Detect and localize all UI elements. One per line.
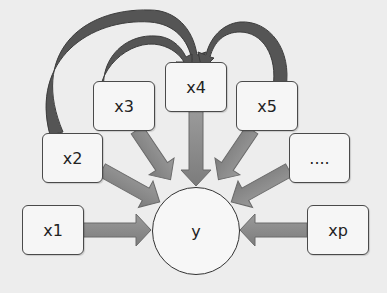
target-label: y: [191, 222, 200, 241]
arrow-x5-to-y: [206, 122, 264, 189]
node-label: x3: [114, 97, 134, 116]
node-x4: x4: [165, 62, 227, 112]
arrow-xp-to-y: [240, 214, 307, 246]
node-label: x1: [43, 221, 63, 240]
arrow-x1-to-y: [83, 214, 151, 246]
node-label: ....: [309, 149, 329, 168]
arrow-x4-to-y: [181, 111, 211, 186]
node-x1: x1: [22, 205, 84, 255]
node-x3: x3: [93, 81, 155, 131]
node-ellipsis: ....: [289, 133, 350, 183]
node-label: x5: [257, 97, 277, 116]
arrow-x3-to-y: [125, 122, 183, 189]
node-x5: x5: [236, 81, 298, 131]
node-xp: xp: [307, 205, 369, 255]
node-label: xp: [328, 221, 348, 240]
node-label: x2: [63, 149, 83, 168]
node-y: y: [152, 187, 240, 275]
node-label: x4: [186, 78, 206, 97]
node-x2: x2: [42, 133, 103, 183]
diagram-canvas: x1 x2 x3 x4 x5 .... xp y: [0, 0, 387, 293]
